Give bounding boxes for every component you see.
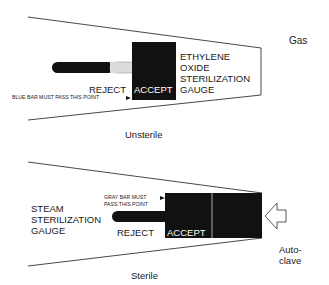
steam-indicator-bar <box>112 211 172 222</box>
gas-accept-label: ACCEPT <box>134 85 173 95</box>
gas-pass-note: BLUE BAR MUST PASS THIS POINT <box>12 95 99 100</box>
steam-pass-note-line-2: PASS THIS POINT <box>104 202 148 207</box>
gas-gauge-title-line-4: GAUGE <box>180 85 214 95</box>
steam-pass-point-arrow <box>160 196 165 200</box>
steam-gauge-title-line-3: GAUGE <box>31 226 65 236</box>
steam-gauge-title-line-2: STERILIZATION <box>31 215 101 225</box>
steam-pass-note-line-1: GRAY BAR MUST <box>104 195 146 200</box>
steam-accept-label: ACCEPT <box>167 228 206 238</box>
steam-side-label-line-1: Auto- <box>279 245 302 255</box>
autoclave-arrow-icon <box>265 203 286 229</box>
gas-side-label: Gas <box>289 36 307 46</box>
steam-reject-label: REJECT <box>117 228 154 238</box>
gas-gauge-title-line-2: OXIDE <box>180 63 210 73</box>
gas-pass-point-arrow <box>126 96 131 100</box>
gas-gauge-title-line-1: ETHYLENE <box>180 52 230 62</box>
gas-gauge-title-line-3: STERILIZATION <box>180 74 250 84</box>
sterilization-gauge-diagram <box>0 0 329 285</box>
steam-caption: Sterile <box>131 271 158 281</box>
steam-side-label-line-2: clave <box>279 256 301 266</box>
gas-caption: Unsterile <box>125 130 163 140</box>
steam-gauge-title-line-1: STEAM <box>31 204 64 214</box>
